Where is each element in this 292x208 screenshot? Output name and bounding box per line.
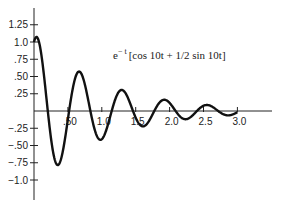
y-tick-label: −.50 [8, 140, 28, 151]
y-tick-label: 1.0 [14, 37, 28, 48]
y-tick-label: .75 [14, 54, 28, 65]
function-annotation: e− t[cos 10t + 1/2 sin 10t] [113, 47, 226, 61]
y-tick-label: 1.25 [9, 19, 29, 30]
x-tick-label: 2.0 [165, 116, 179, 127]
x-tick-label: 2.5 [199, 116, 213, 127]
y-tick-label: −.75 [8, 157, 28, 168]
y-tick-label: .25 [14, 88, 28, 99]
y-tick-label: −.25 [8, 123, 28, 134]
y-tick-label: −1.0 [8, 175, 28, 186]
x-tick-label: .50 [63, 116, 77, 127]
y-tick-label: .50 [14, 71, 28, 82]
x-tick-label: 3.0 [232, 116, 246, 127]
damped-oscillation-chart: 1.251.0.75.50.25−.25−.50−.75−1.0 .501.01… [0, 0, 292, 208]
